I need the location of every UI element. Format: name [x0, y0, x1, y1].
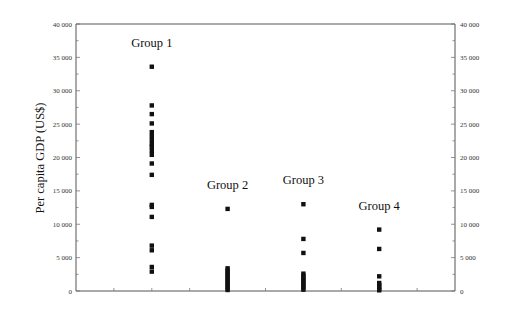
y-tick-label-right: 5 000 [460, 254, 476, 262]
y-tick-label-right: 35 000 [460, 54, 480, 62]
y-tick-label-left: 35 000 [53, 54, 73, 62]
y-tick-label-left: 0 [69, 288, 73, 296]
data-point [301, 202, 305, 206]
data-point [225, 207, 229, 211]
group-label: Group 2 [207, 178, 248, 192]
y-tick-label-right: 0 [460, 288, 464, 296]
data-point [150, 149, 154, 153]
y-tick-label-left: 15 000 [53, 187, 73, 195]
data-point [150, 153, 154, 157]
data-point [150, 215, 154, 219]
y-tick-label-right: 10 000 [460, 221, 480, 229]
y-tick-label-right: 40 000 [460, 21, 480, 29]
data-point [377, 274, 381, 278]
data-point [150, 243, 154, 247]
data-point [150, 161, 154, 165]
group-label: Group 4 [359, 199, 401, 213]
y-tick-label-left: 10 000 [53, 221, 73, 229]
data-point [377, 227, 381, 231]
axes [76, 24, 455, 291]
group-label: Group 3 [283, 173, 324, 187]
y-tick-label-right: 25 000 [460, 121, 480, 129]
y-tick-label-left: 40 000 [53, 21, 73, 29]
data-point [150, 134, 154, 138]
data-point [150, 138, 154, 142]
data-point [301, 287, 305, 291]
data-point [150, 205, 154, 209]
data-points [150, 65, 382, 293]
data-point [377, 247, 381, 251]
data-point [377, 288, 381, 292]
data-point [150, 269, 154, 273]
y-tick-label-right: 20 000 [460, 154, 480, 162]
data-point [150, 248, 154, 252]
data-point [150, 173, 154, 177]
data-point [150, 130, 154, 134]
y-tick-label-right: 30 000 [460, 87, 480, 95]
data-point [150, 103, 154, 107]
data-point [301, 251, 305, 255]
y-axis-label: Per capita GDP (US$) [33, 103, 47, 214]
data-point [150, 65, 154, 69]
data-point [150, 121, 154, 125]
y-tick-label-left: 20 000 [53, 154, 73, 162]
scatter-chart: 05 00010 00015 00020 00025 00030 00035 0… [0, 0, 506, 311]
data-point [150, 112, 154, 116]
y-tick-label-right: 15 000 [460, 187, 480, 195]
data-point [225, 288, 229, 292]
data-point [301, 237, 305, 241]
y-tick-label-left: 5 000 [56, 254, 72, 262]
data-point [150, 265, 154, 269]
group-labels: Group 1Group 2Group 3Group 4 [131, 36, 400, 213]
group-label: Group 1 [131, 36, 172, 50]
y-tick-label-left: 25 000 [53, 121, 73, 129]
y-tick-label-left: 30 000 [53, 87, 73, 95]
data-point [150, 145, 154, 149]
